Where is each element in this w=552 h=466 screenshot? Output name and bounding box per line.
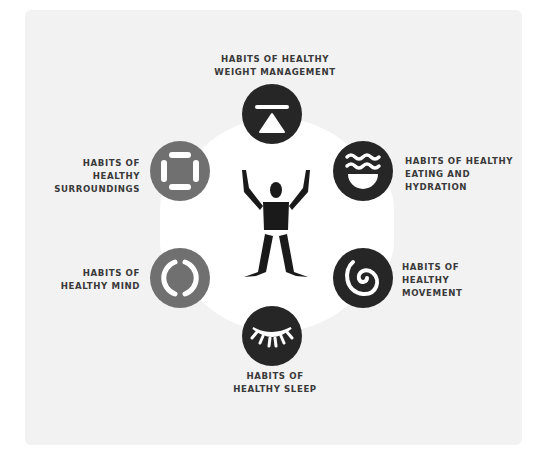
label-weight-management: HABITS OF HEALTHY WEIGHT MANAGEMENT [205,53,345,79]
label-mind: HABITS OF HEALTHY MIND [60,267,140,293]
node-eating-hydration [333,141,393,201]
person-arms-raised-icon [236,168,316,280]
node-mind [150,248,210,308]
label-movement: HABITS OF HEALTHY MOVEMENT [402,261,462,300]
framed-square-icon [150,141,210,201]
label-surroundings: HABITS OF HEALTHY SURROUNDINGS [50,157,140,196]
bowl-waves-icon [333,141,393,201]
spiral-icon [333,248,393,308]
closed-eye-icon [242,306,302,366]
node-sleep [242,306,302,366]
scale-triangle-icon [242,84,302,144]
node-surroundings [150,141,210,201]
node-movement [333,248,393,308]
label-sleep: HABITS OF HEALTHY SLEEP [215,370,335,396]
label-eating-hydration: HABITS OF HEALTHY EATING AND HYDRATION [405,155,513,194]
node-weight-management [242,84,302,144]
brackets-circle-icon [150,248,210,308]
